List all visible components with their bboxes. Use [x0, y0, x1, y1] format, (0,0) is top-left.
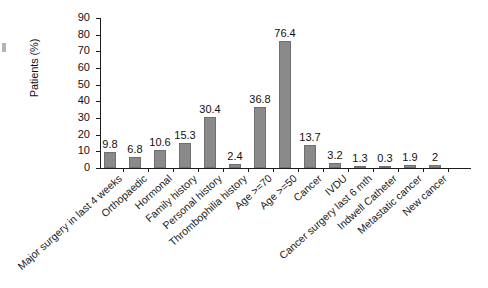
x-axis-tick: [173, 168, 174, 172]
bar-value-label: 1.3: [352, 152, 367, 164]
y-axis-tick-label: 60: [68, 61, 90, 73]
x-axis-tick: [423, 168, 424, 172]
bar[interactable]: 9.8: [104, 152, 116, 168]
bar[interactable]: 3.2: [329, 163, 341, 168]
bar-group: 9.8: [104, 18, 116, 168]
bar-group: 1.3: [354, 18, 366, 168]
x-axis-tick: [123, 168, 124, 172]
bar-group: 76.4: [279, 18, 291, 168]
x-axis-tick: [248, 168, 249, 172]
bar-group: 15.3: [179, 18, 191, 168]
x-axis-tick: [348, 168, 349, 172]
bar-group: 30.4: [204, 18, 216, 168]
bar[interactable]: 1.3: [354, 166, 366, 168]
bar-value-label: 2.4: [227, 150, 242, 162]
x-axis-tick: [298, 168, 299, 172]
x-axis-tick: [398, 168, 399, 172]
bar[interactable]: 0.3: [379, 166, 391, 168]
bar-value-label: 36.8: [249, 93, 270, 105]
bar-value-label: 1.9: [402, 151, 417, 163]
bar-group: 2.4: [229, 18, 241, 168]
y-axis-tick-label: 0: [68, 161, 90, 173]
plot-area: 01020304050607080909.8Major surgery in l…: [100, 18, 470, 168]
y-axis-tick: 60: [96, 68, 100, 69]
bar-group: 2: [429, 18, 441, 168]
y-axis-tick-label: 40: [68, 94, 90, 106]
bar-group: 6.8: [129, 18, 141, 168]
bar[interactable]: 30.4: [204, 117, 216, 168]
y-axis-tick-label: 50: [68, 78, 90, 90]
x-axis-tick: [148, 168, 149, 172]
bar[interactable]: 13.7: [304, 145, 316, 168]
page-edge-artifact: [2, 43, 6, 52]
y-axis-tick-label: 30: [68, 111, 90, 123]
bar-group: 36.8: [254, 18, 266, 168]
bar-group: 0.3: [379, 18, 391, 168]
y-axis-tick: 30: [96, 118, 100, 119]
y-axis-tick: 50: [96, 85, 100, 86]
y-axis-tick: 0: [96, 168, 100, 169]
y-axis-tick: 20: [96, 135, 100, 136]
bar-value-label: 13.7: [299, 131, 320, 143]
y-axis-line: [100, 18, 101, 169]
bar[interactable]: 36.8: [254, 107, 266, 168]
bar-value-label: 6.8: [127, 143, 142, 155]
y-axis-tick-label: 20: [68, 128, 90, 140]
bar-chart-figure: Patients (%) 01020304050607080909.8Major…: [0, 0, 488, 288]
x-axis-category-label: Major surgery in last 4 weeks: [15, 172, 124, 272]
y-axis-tick-label: 70: [68, 44, 90, 56]
y-axis-tick: 10: [96, 151, 100, 152]
y-axis-tick: 80: [96, 35, 100, 36]
y-axis-tick-label: 90: [68, 11, 90, 23]
bar-value-label: 3.2: [327, 149, 342, 161]
x-axis-line: [100, 168, 471, 169]
y-axis-tick: 90: [96, 18, 100, 19]
bar-value-label: 10.6: [149, 136, 170, 148]
x-axis-tick: [198, 168, 199, 172]
bar-value-label: 9.8: [102, 138, 117, 150]
bar-group: 13.7: [304, 18, 316, 168]
x-axis-tick: [373, 168, 374, 172]
x-axis-tick: [273, 168, 274, 172]
bar[interactable]: 6.8: [129, 157, 141, 168]
x-axis-tick: [448, 168, 449, 172]
bar-group: 1.9: [404, 18, 416, 168]
bar[interactable]: 15.3: [179, 143, 191, 169]
bar[interactable]: 10.6: [154, 150, 166, 168]
x-axis-tick: [323, 168, 324, 172]
y-axis-title: Patients (%): [28, 13, 40, 123]
bar[interactable]: 76.4: [279, 41, 291, 168]
y-axis-tick-label: 10: [68, 144, 90, 156]
y-axis-tick-label: 80: [68, 28, 90, 40]
bar[interactable]: 2: [429, 165, 441, 168]
bar-value-label: 30.4: [199, 103, 220, 115]
bar-value-label: 0.3: [377, 152, 392, 164]
bar[interactable]: 1.9: [404, 165, 416, 168]
bar-value-label: 15.3: [174, 129, 195, 141]
x-axis-tick: [223, 168, 224, 172]
bar-group: 3.2: [329, 18, 341, 168]
bar-group: 10.6: [154, 18, 166, 168]
y-axis-tick: 70: [96, 51, 100, 52]
bar-value-label: 76.4: [274, 27, 295, 39]
bar-value-label: 2: [432, 151, 438, 163]
y-axis-tick: 40: [96, 101, 100, 102]
bar[interactable]: 2.4: [229, 164, 241, 168]
